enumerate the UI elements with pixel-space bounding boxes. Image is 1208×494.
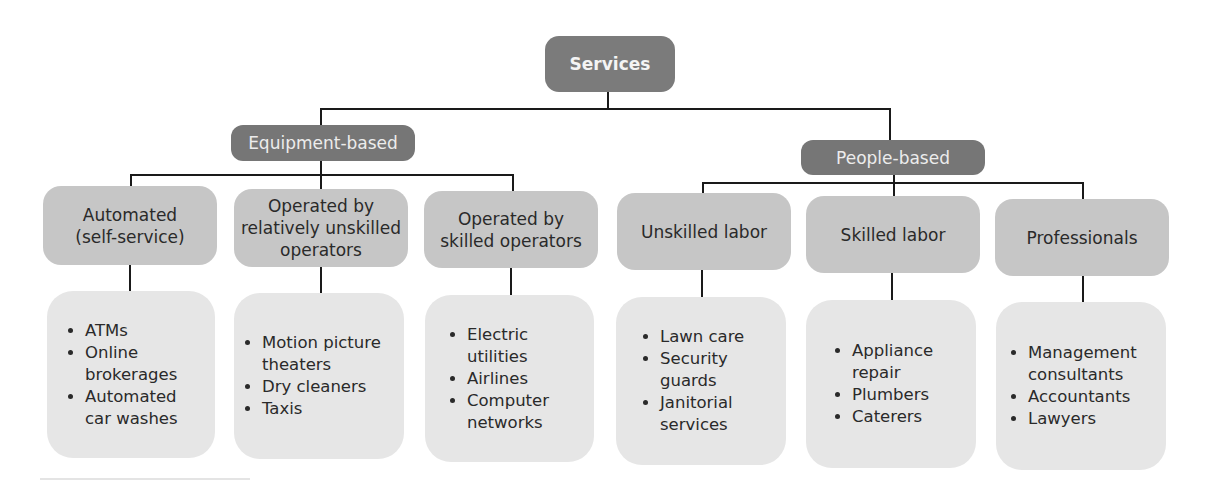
connector-cat1-down (320, 266, 322, 294)
example-item: Accountants (1028, 386, 1137, 408)
node-equipment-based: Equipment-based (231, 125, 415, 161)
node-equipment-based-label: Equipment-based (248, 133, 398, 153)
examples-skilled-labor-list: Appliancerepair Plumbers Caterers (828, 340, 933, 428)
node-people-based: People-based (801, 140, 985, 175)
node-professionals: Professionals (995, 199, 1169, 276)
node-skilled-operators: Operated by skilled operators (424, 191, 598, 268)
examples-unskilled-labor-list: Lawn care Securityguards Janitorialservi… (636, 326, 744, 436)
node-relatively-unskilled-line-2: relatively unskilled (241, 217, 401, 239)
example-item: Securityguards (660, 348, 744, 392)
example-item: Computernetworks (467, 390, 549, 434)
node-services: Services (545, 36, 675, 92)
example-item: Airlines (467, 368, 549, 390)
connector-cat0-down (129, 264, 131, 292)
connector-equipment-up (320, 108, 322, 126)
scan-artifact-line (40, 478, 250, 480)
example-item: Onlinebrokerages (85, 342, 178, 386)
node-relatively-unskilled-line-1: Operated by (241, 195, 401, 217)
connector-cat3-down (701, 270, 703, 298)
node-automated: Automated (self-service) (43, 186, 217, 265)
example-item: Taxis (262, 398, 381, 420)
examples-professionals: Managementconsultants Accountants Lawyer… (996, 302, 1166, 470)
node-relatively-unskilled-line-3: operators (241, 239, 401, 261)
connector-cat2-down (510, 267, 512, 296)
example-item: Janitorialservices (660, 392, 744, 436)
examples-relatively-unskilled-list: Motion picturetheaters Dry cleaners Taxi… (238, 332, 381, 420)
node-skilled-labor-label: Skilled labor (841, 224, 946, 246)
node-relatively-unskilled-operators: Operated by relatively unskilled operato… (234, 189, 408, 267)
node-unskilled-labor: Unskilled labor (617, 193, 791, 270)
example-item: Plumbers (852, 384, 933, 406)
node-skilled-operators-line-2: skilled operators (440, 230, 582, 252)
connector-cat1-up (320, 174, 322, 189)
example-item: Dry cleaners (262, 376, 381, 398)
example-item: Electricutilities (467, 324, 549, 368)
node-services-label: Services (570, 54, 651, 74)
example-item: Lawyers (1028, 408, 1137, 430)
examples-automated: ATMs Onlinebrokerages Automatedcar washe… (47, 291, 215, 458)
example-item: Lawn care (660, 326, 744, 348)
node-unskilled-labor-label: Unskilled labor (641, 221, 767, 243)
connector-equipment-horizontal (130, 174, 514, 176)
examples-relatively-unskilled: Motion picturetheaters Dry cleaners Taxi… (234, 293, 404, 459)
examples-automated-list: ATMs Onlinebrokerages Automatedcar washe… (61, 320, 178, 430)
example-item: Automatedcar washes (85, 386, 178, 430)
connector-cat4-up (893, 182, 895, 196)
examples-skilled-operators: Electricutilities Airlines Computernetwo… (425, 295, 594, 462)
node-skilled-labor: Skilled labor (806, 196, 980, 273)
examples-professionals-list: Managementconsultants Accountants Lawyer… (1004, 342, 1137, 430)
connector-cat5-up (1082, 182, 1084, 199)
example-item: Caterers (852, 406, 933, 428)
node-automated-line-1: Automated (75, 204, 184, 226)
examples-unskilled-labor: Lawn care Securityguards Janitorialservi… (616, 297, 786, 465)
node-professionals-label: Professionals (1026, 227, 1137, 249)
connector-root-horizontal (320, 108, 891, 110)
connector-people-up (889, 108, 891, 141)
example-item: Managementconsultants (1028, 342, 1137, 386)
connector-cat5-down (1082, 276, 1084, 304)
example-item: Appliancerepair (852, 340, 933, 384)
node-people-based-label: People-based (836, 148, 950, 168)
connector-cat2-up (512, 174, 514, 191)
examples-skilled-operators-list: Electricutilities Airlines Computernetwo… (443, 324, 549, 434)
node-automated-line-2: (self-service) (75, 226, 184, 248)
node-skilled-operators-line-1: Operated by (440, 208, 582, 230)
examples-skilled-labor: Appliancerepair Plumbers Caterers (806, 300, 976, 468)
connector-cat4-down (891, 273, 893, 301)
example-item: ATMs (85, 320, 178, 342)
example-item: Motion picturetheaters (262, 332, 381, 376)
